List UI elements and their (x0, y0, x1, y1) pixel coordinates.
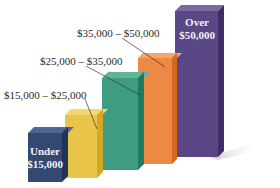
label-25000-35000: $25,000 – $35,000 (40, 55, 123, 67)
label-over-50000: Over $50,000 (176, 16, 218, 42)
label-under-15000: Under $15,000 (27, 145, 63, 171)
label-over-line2: $50,000 (176, 29, 218, 42)
label-under-line2: $15,000 (27, 158, 63, 171)
label-under-line1: Under (27, 145, 63, 158)
bar-25000-35000 (102, 72, 150, 170)
income-bracket-chart: $35,000 – $50,000 $25,000 – $35,000 $15,… (0, 0, 280, 188)
bar-35000-50000 (138, 53, 182, 164)
bar-15000-25000 (65, 109, 108, 178)
label-35000-50000: $35,000 – $50,000 (77, 27, 160, 39)
label-over-line1: Over (176, 16, 218, 29)
label-15000-25000: $15,000 – $25,000 (4, 89, 87, 101)
